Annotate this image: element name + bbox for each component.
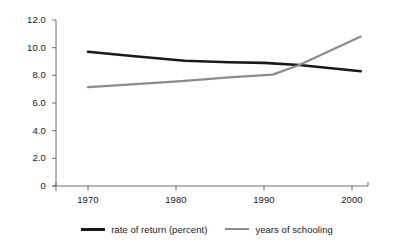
y-axis-tick-label: 8.0: [20, 69, 46, 80]
chart-legend: rate of return (percent)years of schooli…: [0, 218, 414, 240]
y-axis-tick-label: 2.0: [20, 152, 46, 163]
legend-line-swatch-icon: [81, 228, 105, 231]
y-axis-tick-label: 4.0: [20, 125, 46, 136]
legend-line-swatch-icon: [225, 228, 249, 230]
chart-plot-area: [0, 0, 414, 250]
legend-item[interactable]: years of schooling: [225, 224, 332, 235]
y-axis-ticks: [52, 20, 56, 186]
data-series-layer: [88, 37, 361, 87]
line-chart: 12.010.08.06.04.02.00 1970198019902000 r…: [0, 0, 414, 250]
legend-item[interactable]: rate of return (percent): [81, 224, 207, 235]
y-axis-tick-label: 0: [20, 180, 46, 191]
y-axis-tick-label: 6.0: [20, 97, 46, 108]
y-axis-tick-label: 10.0: [20, 42, 46, 53]
x-axis-tick-label: 1980: [156, 194, 196, 205]
legend-label: rate of return (percent): [111, 224, 207, 235]
legend-label: years of schooling: [255, 224, 332, 235]
x-axis-tick-label: 2000: [332, 194, 372, 205]
x-axis-tick-label: 1990: [244, 194, 284, 205]
y-axis-tick-label: 12.0: [20, 14, 46, 25]
x-axis-tick-label: 1970: [68, 194, 108, 205]
